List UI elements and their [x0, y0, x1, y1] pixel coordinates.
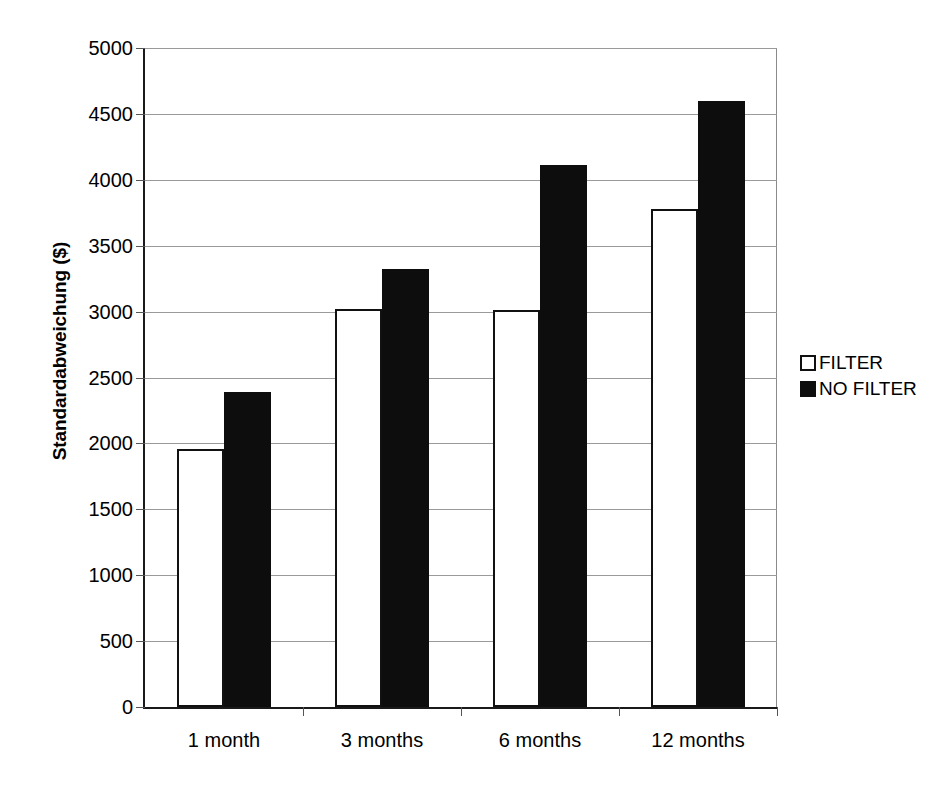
y-axis-tick-mark	[136, 180, 145, 181]
y-axis-tick-label: 3500	[89, 234, 134, 257]
gridline	[145, 180, 777, 181]
y-axis-title: Standardabweichung ($)	[49, 191, 71, 511]
y-axis-tick-mark	[136, 114, 145, 115]
y-axis-tick-label: 4000	[89, 168, 134, 191]
legend-label: NO FILTER	[819, 378, 917, 400]
x-axis-category-label: 1 month	[188, 729, 260, 752]
legend-item: FILTER	[800, 352, 917, 374]
bar-filter-12-months	[651, 209, 698, 707]
bar-no-filter-3-months	[382, 269, 429, 707]
y-axis-tick-label: 2000	[89, 432, 134, 455]
x-axis-tick-mark	[777, 707, 778, 716]
y-axis-tick-label: 500	[100, 630, 133, 653]
y-axis-tick-mark	[136, 707, 145, 708]
y-axis-tick-mark	[136, 575, 145, 576]
y-axis-tick-mark	[136, 641, 145, 642]
y-axis-tick-mark	[136, 246, 145, 247]
y-axis-tick-label: 4500	[89, 102, 134, 125]
x-axis-tick-mark	[619, 707, 620, 716]
y-axis-tick-mark	[136, 378, 145, 379]
bar-filter-3-months	[335, 309, 382, 707]
x-axis-category-label: 12 months	[651, 729, 744, 752]
legend-label: FILTER	[819, 352, 883, 374]
x-axis-tick-mark	[461, 707, 462, 716]
bar-no-filter-12-months	[698, 101, 745, 707]
bar-no-filter-6-months	[540, 165, 587, 707]
gridline	[145, 48, 777, 49]
x-axis-category-label: 3 months	[341, 729, 423, 752]
y-axis-tick-mark	[136, 312, 145, 313]
y-axis-tick-label: 1000	[89, 564, 134, 587]
x-axis-tick-mark	[303, 707, 304, 716]
plot-area: 0500100015002000250030003500400045005000…	[143, 48, 777, 709]
y-axis-tick-mark	[136, 509, 145, 510]
legend-swatch-icon	[800, 355, 816, 371]
gridline	[145, 114, 777, 115]
legend-item: NO FILTER	[800, 378, 917, 400]
bar-chart-figure: Standardabweichung ($) 05001000150020002…	[0, 0, 947, 788]
y-axis-tick-label: 5000	[89, 37, 134, 60]
y-axis-tick-label: 0	[122, 696, 133, 719]
y-axis-tick-label: 2500	[89, 366, 134, 389]
y-axis-tick-label: 1500	[89, 498, 134, 521]
legend-swatch-icon	[800, 381, 816, 397]
y-axis-tick-mark	[136, 48, 145, 49]
bar-filter-6-months	[493, 310, 540, 707]
y-axis-tick-mark	[136, 443, 145, 444]
bar-no-filter-1-month	[224, 392, 271, 707]
chart-legend: FILTERNO FILTER	[800, 352, 917, 400]
bar-filter-1-month	[177, 449, 224, 707]
x-axis-category-label: 6 months	[499, 729, 581, 752]
y-axis-tick-label: 3000	[89, 300, 134, 323]
